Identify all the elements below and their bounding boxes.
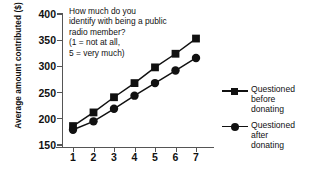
legend-item-after: Questioned after donating [222, 120, 314, 151]
circle-marker [130, 91, 138, 99]
square-marker [90, 109, 98, 117]
square-marker-icon [222, 86, 248, 96]
circle-marker [69, 126, 77, 134]
circle-marker [89, 117, 97, 125]
legend-item-before: Questioned before donating [222, 84, 314, 115]
legend-label-line: Questioned [251, 120, 314, 130]
legend-label-line: before [251, 94, 314, 104]
square-marker [192, 35, 200, 43]
legend-label-line: donating [251, 140, 314, 150]
legend-label-line: donating [251, 104, 314, 114]
circle-marker [151, 79, 159, 87]
circle-marker-icon [222, 122, 248, 132]
square-marker [131, 79, 139, 87]
circle-marker [171, 66, 179, 74]
chart-legend: Questioned before donating Questioned af… [222, 84, 314, 155]
chart-figure: Average amount contributed ($) 400 350 3… [0, 0, 314, 179]
square-marker [172, 50, 180, 58]
square-marker [110, 93, 118, 101]
circle-marker [192, 54, 200, 62]
square-marker [151, 63, 159, 71]
circle-marker [110, 105, 118, 113]
legend-label-line: after [251, 130, 314, 140]
legend-label-line: Questioned [251, 84, 314, 94]
